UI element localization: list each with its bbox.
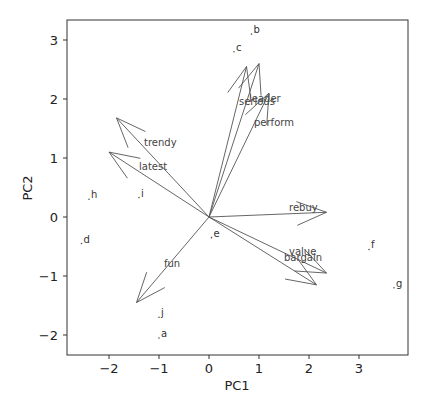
y-tick-label: 0: [50, 210, 58, 225]
point-label: j: [160, 307, 164, 318]
loading-label: rebuy: [289, 202, 318, 213]
x-axis: −2−10123: [99, 355, 363, 376]
x-axis-label: PC1: [224, 378, 249, 393]
y-tick-label: 2: [50, 92, 58, 107]
y-tick-label: 3: [50, 33, 58, 48]
x-tick-label: 3: [355, 361, 363, 376]
point-label: h: [91, 189, 97, 200]
x-tick-label: 0: [205, 361, 213, 376]
data-point: [368, 249, 370, 251]
point-label: b: [254, 24, 260, 35]
pca-biplot: −2−10123 −2−10123 trendylatestleaderseri…: [0, 0, 425, 408]
y-tick-label: −2: [39, 328, 58, 343]
data-point: [393, 287, 395, 289]
loading-label: latest: [139, 161, 167, 172]
data-point: [81, 243, 83, 245]
point-label: a: [161, 328, 167, 339]
loading-label: serious: [239, 96, 275, 107]
data-point: [138, 197, 140, 199]
data-point: [88, 199, 90, 201]
x-tick-label: −2: [99, 361, 118, 376]
data-point: [158, 317, 160, 319]
data-point: [211, 237, 213, 239]
data-point: [158, 337, 160, 339]
loading-label: perform: [254, 117, 294, 128]
data-point: [233, 51, 235, 53]
point-label: f: [371, 239, 375, 250]
point-label: g: [396, 278, 402, 289]
loading-label: fun: [164, 258, 180, 269]
point-label: i: [141, 188, 144, 199]
plot-area: [67, 20, 408, 355]
point-label: d: [84, 234, 90, 245]
y-axis: −2−10123: [39, 33, 67, 343]
point-label: e: [214, 228, 220, 239]
y-axis-label: PC2: [20, 175, 35, 200]
y-tick-label: 1: [50, 151, 58, 166]
loading-label: bargain: [284, 252, 322, 263]
x-tick-label: −1: [149, 361, 168, 376]
data-point: [251, 33, 253, 35]
point-label: c: [236, 42, 242, 53]
x-tick-label: 1: [255, 361, 263, 376]
loading-label: trendy: [144, 137, 177, 148]
y-tick-label: −1: [39, 269, 58, 284]
x-tick-label: 2: [305, 361, 313, 376]
